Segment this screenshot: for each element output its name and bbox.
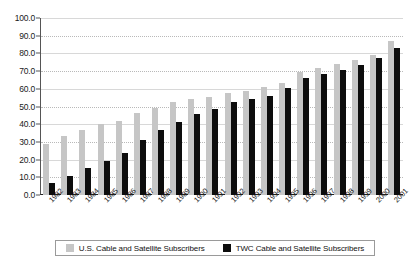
bar-group-1998 bbox=[331, 18, 349, 195]
bar-group-1994 bbox=[258, 18, 276, 195]
x-tick-cell-2000: 2000 bbox=[367, 196, 385, 232]
bar-twc-1990 bbox=[194, 114, 200, 195]
bar-group-1984 bbox=[76, 18, 94, 195]
bar-group-1989 bbox=[167, 18, 185, 195]
bar-twc-1994 bbox=[267, 96, 273, 195]
legend-label-twc: TWC Cable and Satellite Subscribers bbox=[236, 244, 365, 253]
y-tick-label-60: 60.0 bbox=[19, 84, 35, 94]
bar-twc-1995 bbox=[285, 88, 291, 195]
x-tick-cell-1996: 1996 bbox=[294, 196, 312, 232]
legend-label-us: U.S. Cable and Satellite Subscribers bbox=[79, 244, 205, 253]
bar-group-1987 bbox=[131, 18, 149, 195]
bar-twc-1992 bbox=[231, 102, 237, 195]
bar-group-1999 bbox=[349, 18, 367, 195]
bar-group-1983 bbox=[58, 18, 76, 195]
bar-group-1992 bbox=[222, 18, 240, 195]
y-tick-label-0: 0.0 bbox=[24, 190, 35, 200]
bar-group-1990 bbox=[185, 18, 203, 195]
y-tick-label-80: 80.0 bbox=[19, 48, 35, 58]
x-tick-cell-1988: 1988 bbox=[149, 196, 167, 232]
x-tick-cell-1991: 1991 bbox=[203, 196, 221, 232]
x-tick-cell-1995: 1995 bbox=[276, 196, 294, 232]
bar-group-2000 bbox=[367, 18, 385, 195]
bar-twc-1996 bbox=[303, 78, 309, 195]
legend-item-us: U.S. Cable and Satellite Subscribers bbox=[66, 244, 205, 253]
bar-twc-1998 bbox=[340, 70, 346, 195]
x-tick-cell-1982: 1982 bbox=[40, 196, 58, 232]
bar-twc-1988 bbox=[158, 130, 164, 195]
bars-layer bbox=[40, 18, 403, 195]
x-tick-cell-1992: 1992 bbox=[222, 196, 240, 232]
bar-group-1986 bbox=[113, 18, 131, 195]
legend-item-twc: TWC Cable and Satellite Subscribers bbox=[223, 244, 365, 253]
y-tick-label-40: 40.0 bbox=[19, 119, 35, 129]
y-tick-label-10: 10.0 bbox=[19, 172, 35, 182]
bar-twc-1987 bbox=[140, 140, 146, 195]
cable-satellite-subscribers-bar-chart: 0.010.020.030.040.050.060.070.080.090.01… bbox=[0, 0, 411, 268]
x-axis: 1982198319841985198619871988198919901991… bbox=[40, 196, 403, 232]
bar-group-1985 bbox=[94, 18, 112, 195]
bar-group-1996 bbox=[294, 18, 312, 195]
chart-legend: U.S. Cable and Satellite Subscribers TWC… bbox=[55, 240, 375, 256]
y-tick-label-50: 50.0 bbox=[19, 102, 35, 112]
x-tick-cell-1984: 1984 bbox=[76, 196, 94, 232]
x-tick-cell-2001: 2001 bbox=[385, 196, 403, 232]
bar-group-1995 bbox=[276, 18, 294, 195]
bar-twc-2001 bbox=[394, 48, 400, 195]
y-tick-label-100: 100.0 bbox=[15, 13, 35, 23]
x-tick-cell-1986: 1986 bbox=[113, 196, 131, 232]
y-tick-label-70: 70.0 bbox=[19, 66, 35, 76]
y-tick-label-30: 30.0 bbox=[19, 137, 35, 147]
bar-twc-1991 bbox=[212, 109, 218, 195]
bar-group-1991 bbox=[203, 18, 221, 195]
legend-swatch-us-icon bbox=[66, 244, 74, 252]
x-tick-cell-1998: 1998 bbox=[331, 196, 349, 232]
bar-twc-2000 bbox=[376, 58, 382, 195]
bar-twc-1999 bbox=[358, 65, 364, 195]
bar-twc-1986 bbox=[122, 153, 128, 195]
y-tick-label-20: 20.0 bbox=[19, 155, 35, 165]
x-tick-cell-1985: 1985 bbox=[94, 196, 112, 232]
bar-twc-1989 bbox=[176, 122, 182, 195]
x-tick-cell-1990: 1990 bbox=[185, 196, 203, 232]
legend-swatch-twc-icon bbox=[223, 244, 231, 252]
bar-twc-1993 bbox=[249, 99, 255, 195]
x-tick-cell-1987: 1987 bbox=[131, 196, 149, 232]
bar-group-1997 bbox=[312, 18, 330, 195]
x-tick-cell-1994: 1994 bbox=[258, 196, 276, 232]
x-tick-cell-1983: 1983 bbox=[58, 196, 76, 232]
bar-group-1982 bbox=[40, 18, 58, 195]
y-axis: 0.010.020.030.040.050.060.070.080.090.01… bbox=[0, 18, 40, 195]
bar-group-2001 bbox=[385, 18, 403, 195]
x-tick-cell-1999: 1999 bbox=[349, 196, 367, 232]
y-tick-label-90: 90.0 bbox=[19, 31, 35, 41]
bar-group-1993 bbox=[240, 18, 258, 195]
x-tick-cell-1989: 1989 bbox=[167, 196, 185, 232]
bar-group-1988 bbox=[149, 18, 167, 195]
bar-twc-1997 bbox=[321, 74, 327, 195]
x-tick-cell-1997: 1997 bbox=[312, 196, 330, 232]
x-tick-cell-1993: 1993 bbox=[240, 196, 258, 232]
